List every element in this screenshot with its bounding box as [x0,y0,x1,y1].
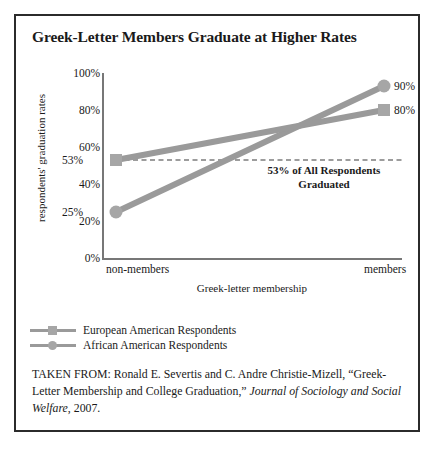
marker-european-american-nonmembers [110,154,122,166]
marker-european-american-members [378,104,390,116]
x-axis-title: Greek-letter membership [102,282,402,294]
legend-item-european-american: European American Respondents [30,322,400,337]
source-citation-year: , 2007. [68,401,100,415]
reference-line-annotation-line1: 53% of All Respondents [238,164,410,178]
source-citation-journal-part1: Journal of [250,384,299,398]
y-tick-label-80: 80% [54,104,100,116]
x-tick-label-non-members: non-members [106,263,169,275]
legend-swatch-square-icon [30,324,76,336]
series-line-african-american [116,86,384,212]
circle-marker-icon [48,341,57,350]
y-tick-label-0: 0% [54,252,100,264]
marker-african-american-members [378,80,391,93]
source-citation-authors: TAKEN FROM: Ronald E. Severtis and C. An… [32,367,345,381]
y-tick-label-40: 40% [54,178,100,190]
chart-legend: European American Respondents African Am… [30,322,400,352]
point-label-african-american-nonmembers: 25% [62,206,83,218]
y-tick-label-100: 100% [54,67,100,79]
point-label-african-american-members: 90% [394,80,415,92]
plot-area: respondents' graduation rates 100% 80% 6… [16,60,418,316]
reference-line-annotation-line2: Graduated [238,178,410,192]
y-axis-title: respondents' graduation rates [35,83,47,233]
point-label-european-american-members: 80% [394,104,415,116]
legend-label-african-american: African American Respondents [83,339,227,351]
y-axis-tick-labels: 100% 80% 60% 40% 20% 0% [48,60,100,316]
point-label-european-american-nonmembers: 53% [62,154,83,166]
legend-item-african-american: African American Respondents [30,337,400,352]
x-tick-label-members: members [364,263,406,275]
square-marker-icon [48,326,57,335]
source-citation: TAKEN FROM: Ronald E. Severtis and C. An… [32,366,404,416]
y-tick-label-60: 60% [54,141,100,153]
marker-african-american-nonmembers [110,206,123,219]
figure-frame: Greek-Letter Members Graduate at Higher … [14,14,420,432]
legend-label-european-american: European American Respondents [83,324,236,336]
chart-title: Greek-Letter Members Graduate at Higher … [32,28,357,46]
legend-swatch-circle-icon [30,339,76,351]
reference-line-annotation: 53% of All Respondents Graduated [238,164,410,192]
series-line-european-american [116,110,384,160]
